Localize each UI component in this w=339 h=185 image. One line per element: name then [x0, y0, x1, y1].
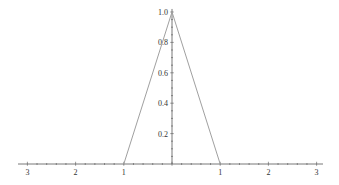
x-tick-label: 1 — [218, 168, 222, 177]
y-tick-label: 0.4 — [158, 99, 168, 108]
y-tick-label: 1.0 — [158, 8, 168, 17]
y-tick-label: 0.6 — [158, 69, 168, 78]
x-tick-label: 1 — [122, 168, 126, 177]
x-tick-label: 3 — [25, 168, 29, 177]
x-tick-label: 2 — [74, 168, 78, 177]
chart-plot: 321123 0.20.40.60.81.0 — [0, 0, 339, 185]
x-tick-label: 3 — [315, 168, 319, 177]
x-axis: 321123 — [18, 162, 323, 177]
x-tick-label: 2 — [266, 168, 270, 177]
y-tick-label: 0.2 — [158, 130, 168, 139]
